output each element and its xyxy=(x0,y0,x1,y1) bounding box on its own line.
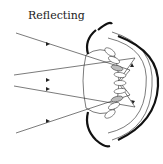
diagram: Reflecting xyxy=(0,0,163,164)
reflecting-eye-diagram xyxy=(0,0,163,164)
